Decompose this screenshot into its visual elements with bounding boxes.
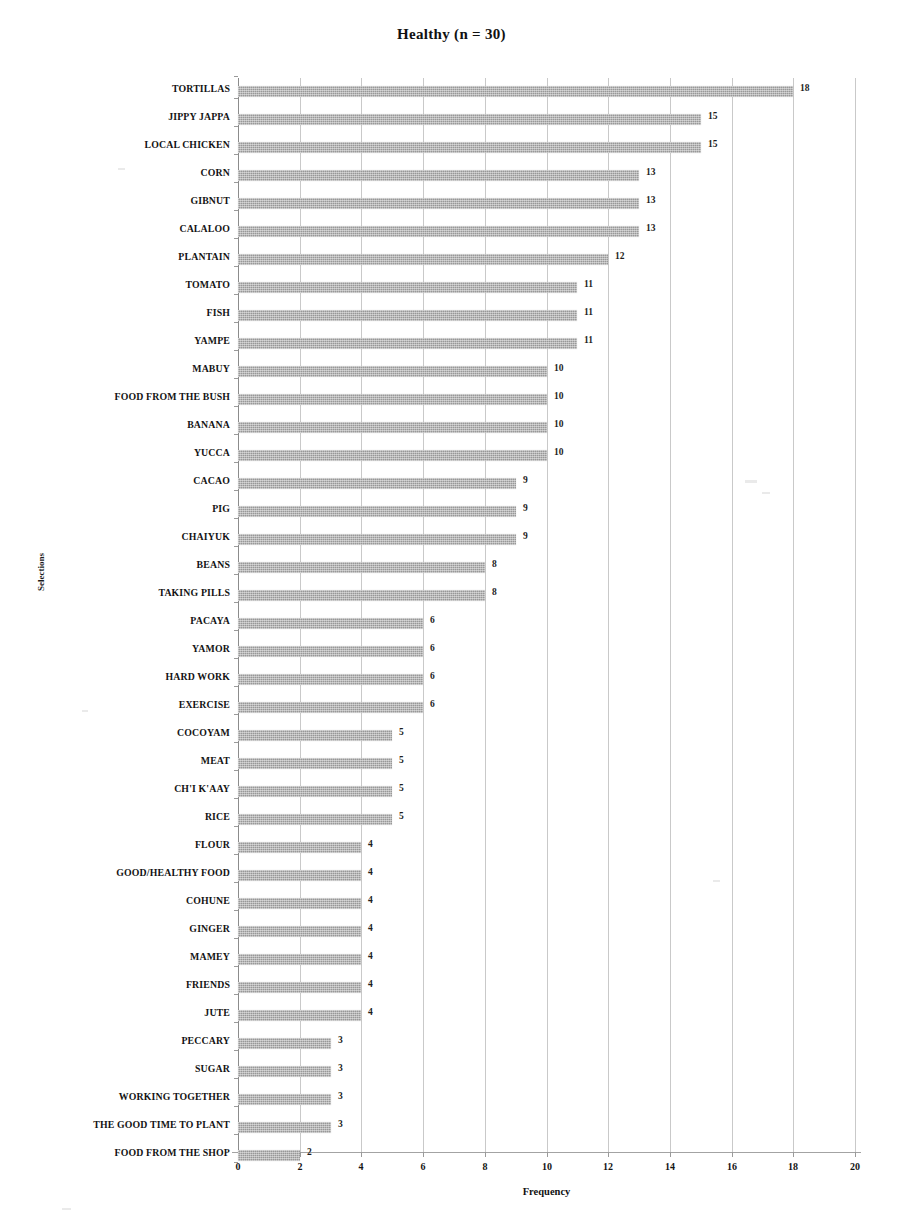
bar [238, 534, 516, 545]
category-label: GINGER [0, 923, 238, 934]
bar-row: COHUNE4 [0, 890, 903, 918]
bar-value-label: 3 [338, 1063, 343, 1073]
bar [238, 814, 392, 825]
bar-value-label: 8 [492, 559, 497, 569]
bar-value-label: 3 [338, 1035, 343, 1045]
bar [238, 450, 547, 461]
bar-row: GOOD/HEALTHY FOOD4 [0, 862, 903, 890]
category-label: CH'I K'AAY [0, 783, 238, 794]
bar-value-label: 9 [523, 475, 528, 485]
y-tick-mark [234, 854, 238, 855]
bar-value-label: 11 [584, 279, 593, 289]
bar-row: FRIENDS4 [0, 974, 903, 1002]
bar-row: YUCCA10 [0, 442, 903, 470]
category-label: BANANA [0, 419, 238, 430]
bar [238, 702, 423, 713]
bar-value-label: 9 [523, 531, 528, 541]
page-title: Healthy (n = 30) [0, 26, 903, 43]
category-label: WORKING TOGETHER [0, 1091, 238, 1102]
bar [238, 842, 361, 853]
category-label: TAKING PILLS [0, 587, 238, 598]
bar-row: CHAIYUK9 [0, 526, 903, 554]
bar [238, 282, 577, 293]
bar [238, 198, 639, 209]
bar [238, 254, 608, 265]
bar-row: EXERCISE6 [0, 694, 903, 722]
category-label: HARD WORK [0, 671, 238, 682]
bar-row: THE GOOD TIME TO PLANT3 [0, 1114, 903, 1142]
bar-value-label: 11 [584, 335, 593, 345]
category-label: GOOD/HEALTHY FOOD [0, 867, 238, 878]
bar-value-label: 5 [399, 783, 404, 793]
y-tick-mark [234, 882, 238, 883]
bar [238, 226, 639, 237]
category-label: FOOD FROM THE BUSH [0, 391, 238, 402]
y-tick-mark [234, 266, 238, 267]
bar-row: FOOD FROM THE BUSH10 [0, 386, 903, 414]
y-tick-mark [234, 910, 238, 911]
category-label: CORN [0, 167, 238, 178]
category-label: LOCAL CHICKEN [0, 139, 238, 150]
bar [238, 366, 547, 377]
bar-value-label: 4 [368, 1007, 373, 1017]
bar [238, 1010, 361, 1021]
bar [238, 646, 423, 657]
category-label: MABUY [0, 363, 238, 374]
bar-value-label: 5 [399, 755, 404, 765]
y-tick-mark [234, 1106, 238, 1107]
category-label: THE GOOD TIME TO PLANT [0, 1119, 238, 1130]
bar [238, 310, 577, 321]
bar [238, 758, 392, 769]
bar-value-label: 3 [338, 1119, 343, 1129]
bar-row: CACAO9 [0, 470, 903, 498]
category-label: CHAIYUK [0, 531, 238, 542]
y-tick-mark [234, 714, 238, 715]
bar [238, 1122, 331, 1133]
y-tick-mark [234, 126, 238, 127]
bar-value-label: 10 [554, 419, 564, 429]
bar-row: WORKING TOGETHER3 [0, 1086, 903, 1114]
bar-row: PACAYA6 [0, 610, 903, 638]
category-label: BEANS [0, 559, 238, 570]
bar-value-label: 11 [584, 307, 593, 317]
bar [238, 394, 547, 405]
bar-row: HARD WORK6 [0, 666, 903, 694]
category-label: TOMATO [0, 279, 238, 290]
bar [238, 1038, 331, 1049]
bar-row: FISH11 [0, 302, 903, 330]
category-label: YAMPE [0, 335, 238, 346]
category-label: JUTE [0, 1007, 238, 1018]
y-tick-mark [234, 294, 238, 295]
bar [238, 618, 423, 629]
bar [238, 142, 701, 153]
bar-row: FOOD FROM THE SHOP2 [0, 1142, 903, 1170]
y-tick-mark [234, 1134, 238, 1135]
y-tick-mark [234, 490, 238, 491]
category-label: RICE [0, 811, 238, 822]
bar [238, 954, 361, 965]
bar [238, 926, 361, 937]
bar [238, 898, 361, 909]
y-tick-mark [234, 76, 238, 77]
bar-row: MEAT5 [0, 750, 903, 778]
y-tick-mark [234, 98, 238, 99]
category-label: PACAYA [0, 615, 238, 626]
y-tick-mark [234, 1022, 238, 1023]
bar-value-label: 13 [646, 195, 656, 205]
bar-row: PIG9 [0, 498, 903, 526]
y-tick-mark [234, 798, 238, 799]
y-tick-mark [234, 1078, 238, 1079]
bar-row: GIBNUT13 [0, 190, 903, 218]
bar-value-label: 6 [430, 671, 435, 681]
y-tick-mark [234, 574, 238, 575]
bar [238, 982, 361, 993]
bar-value-label: 4 [368, 867, 373, 877]
bar-value-label: 4 [368, 839, 373, 849]
bar-value-label: 6 [430, 643, 435, 653]
bar-value-label: 10 [554, 447, 564, 457]
bar-value-label: 13 [646, 167, 656, 177]
y-tick-mark [234, 462, 238, 463]
category-label: YUCCA [0, 447, 238, 458]
bar [238, 170, 639, 181]
y-tick-mark [234, 322, 238, 323]
